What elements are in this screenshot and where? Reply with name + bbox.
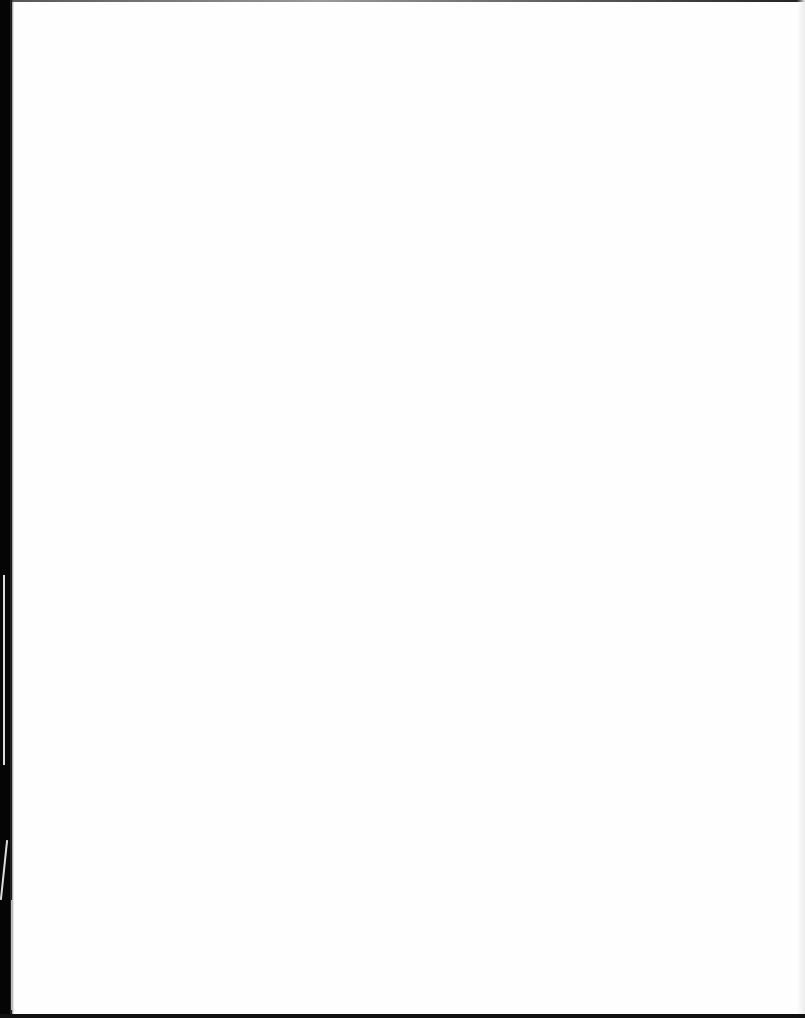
binding-tear-mark: [11, 900, 13, 1010]
scan-binding-edge-fade: [10, 0, 14, 1018]
scan-right-shade: [797, 0, 805, 1018]
blank-scanned-page: [0, 0, 805, 1018]
scan-bottom-edge: [0, 1014, 805, 1018]
scan-top-edge: [0, 0, 805, 2]
binding-tear-mark: [3, 575, 5, 765]
